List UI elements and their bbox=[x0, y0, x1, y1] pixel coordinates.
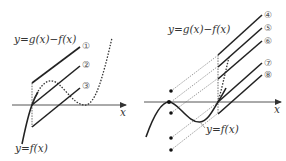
left-label-g-minus-f: y=g(x)−f(x) bbox=[13, 33, 76, 45]
right-x-axis-label: x bbox=[274, 103, 280, 115]
right-line-8 bbox=[218, 75, 262, 114]
left-line-2-label: ② bbox=[82, 60, 90, 70]
right-label-g-minus-f: y=g(x)−f(x) bbox=[167, 23, 230, 35]
right-line-7 bbox=[218, 63, 262, 102]
left-line-3 bbox=[32, 88, 80, 127]
right-line-8-label: ⑧ bbox=[264, 70, 272, 80]
left-line-1-label: ① bbox=[82, 41, 90, 51]
right-line-4-label: ④ bbox=[264, 10, 272, 20]
left-x-axis-label: x bbox=[120, 106, 126, 118]
right-line-7-label: ⑦ bbox=[264, 58, 272, 68]
right-curve-g-minus-f bbox=[218, 57, 229, 102]
right-line-6-label: ⑥ bbox=[264, 36, 272, 46]
point-dot-4 bbox=[169, 136, 173, 140]
diagram-canvas: x ① ② ③ y=g(x)−f(x) y=f(x) x bbox=[0, 0, 286, 161]
left-panel: x ① ② ③ y=g(x)−f(x) y=f(x) bbox=[12, 33, 126, 154]
right-line-5-label: ⑤ bbox=[264, 23, 272, 33]
point-dot-2 bbox=[167, 100, 171, 104]
left-curve-f bbox=[22, 92, 38, 144]
left-line-3-label: ③ bbox=[82, 81, 90, 91]
guide-line-4 bbox=[171, 56, 217, 91]
right-panel: x ④ ⑤ ⑥ ⑦ ⑧ y=g(x)−f(x) y=f(x) bbox=[144, 10, 281, 152]
left-line-1 bbox=[32, 47, 80, 83]
point-dot-3 bbox=[169, 111, 173, 115]
left-label-f: y=f(x) bbox=[14, 142, 48, 154]
point-dot-5 bbox=[169, 148, 173, 152]
right-label-f: y=f(x) bbox=[205, 123, 239, 135]
point-dot-1 bbox=[169, 89, 173, 93]
right-line-4 bbox=[218, 15, 262, 55]
right-label-f-leader bbox=[200, 122, 205, 128]
